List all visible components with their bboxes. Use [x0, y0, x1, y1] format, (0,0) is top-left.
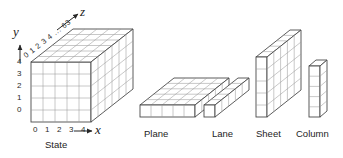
- x-tick-2: 2: [57, 126, 61, 134]
- caption-plane: Plane: [144, 129, 168, 139]
- x-tick-1: 1: [45, 126, 49, 134]
- x-tick-4: 4: [81, 126, 85, 134]
- column-shape: [309, 60, 327, 117]
- x-tick-0: 0: [33, 126, 37, 134]
- y-tick-4: 4: [17, 58, 21, 66]
- keccak-state-diagram: [0, 0, 343, 158]
- caption-state: State: [45, 140, 67, 150]
- caption-sheet: Sheet: [256, 129, 281, 139]
- y-tick-0: 0: [17, 106, 21, 114]
- z-axis-label: z: [80, 5, 85, 18]
- y-tick-1: 1: [17, 94, 21, 102]
- state-front-face: [31, 62, 91, 122]
- caption-lane: Lane: [212, 129, 233, 139]
- y-axis-label: y: [13, 25, 19, 38]
- y-tick-2: 2: [17, 82, 21, 90]
- x-tick-3: 3: [69, 126, 73, 134]
- y-tick-3: 3: [17, 70, 21, 78]
- x-axis-label: x: [95, 123, 101, 136]
- caption-column: Column: [296, 129, 329, 139]
